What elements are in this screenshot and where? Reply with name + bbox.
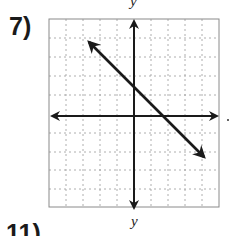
- x-axis-label-fragment: [227, 119, 229, 121]
- next-graph-y-axis-label: y: [131, 214, 138, 229]
- coordinate-graph: [0, 0, 230, 236]
- problem-number-11: 11): [6, 221, 41, 236]
- plotted-line: [89, 42, 204, 157]
